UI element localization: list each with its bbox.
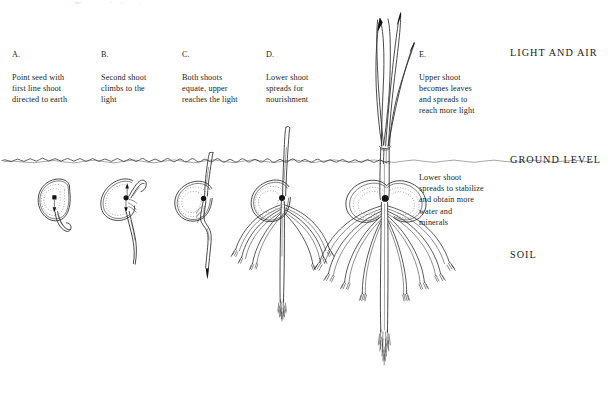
caption-stage-d-text: Lower shoot spreads for nourishment [266,73,308,104]
caption-stage-e-letter: E. [419,49,511,60]
caption-stage-e-text: Upper shoot becomes leaves and spreads t… [419,73,475,116]
caption-stage-a: A. Point seed with first line shoot dire… [12,38,98,105]
root-tip-hairs-e-right [403,262,456,301]
caption-stage-c-letter: C. [182,49,270,60]
caption-stage-a-text: Point seed with first line shoot directe… [12,73,67,104]
note-lower-shoot-spreads: Lower shoot spreads to stabilize and obt… [419,172,523,228]
seedling-stage-c [175,152,213,279]
zone-label-light-and-air: LIGHT AND AIR [510,47,598,58]
root-tip-hairs-e-left [314,262,367,301]
zone-label-ground-level: GROUND LEVEL [510,154,601,165]
seedling-stage-b [101,179,147,264]
caption-stage-b-text: Second shoot climbs to the light [101,73,146,104]
caption-stage-d: D. Lower shoot spreads for nourishment [266,38,350,105]
seed-germination-diagram: seedling germination stages .ln { fill:n… [0,0,614,394]
root-tip-hairs-d [278,300,287,321]
seedling-stage-a [38,179,71,231]
caption-stage-d-letter: D. [266,49,350,60]
root-tip-hairs-d-right [311,249,334,269]
root-tip-hairs-e-center [378,330,390,365]
caption-stage-c: C. Both shoots equate, upper reaches the… [182,38,270,105]
caption-stage-b: B. Second shoot climbs to the light [101,38,183,105]
caption-stage-a-letter: A. [12,49,98,60]
root-tip-hairs-d-left [231,249,258,269]
caption-stage-c-text: Both shoots equate, upper reaches the li… [182,73,238,104]
seedling-stage-d [231,126,334,321]
caption-stage-b-letter: B. [101,49,183,60]
zone-label-soil: SOIL [510,249,537,260]
caption-stage-e: E. Upper shoot becomes leaves and spread… [419,38,511,116]
ground-line [2,158,593,163]
